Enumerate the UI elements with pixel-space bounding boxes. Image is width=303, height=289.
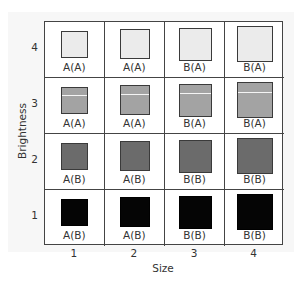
cell-label: A(B) <box>45 229 104 241</box>
grid-cell: B(B) <box>165 190 225 246</box>
grid-cell: B(B) <box>225 190 284 246</box>
cell-label: A(B) <box>45 173 104 185</box>
y-tick-label: 1 <box>26 209 38 221</box>
cell-label: B(A) <box>225 117 284 129</box>
stimulus-grid: A(A)A(A)B(A)B(A)A(A)A(A)B(A)B(A)A(B)A(B)… <box>44 21 283 245</box>
cell-label: A(B) <box>105 229 165 241</box>
grid-cell: A(B) <box>45 134 105 190</box>
stimulus-square <box>120 29 150 59</box>
grid-cell: A(B) <box>45 190 105 246</box>
stimulus-square <box>179 196 212 229</box>
grid-cell: A(A) <box>105 78 166 134</box>
cell-label: A(A) <box>45 117 104 129</box>
highlight-stripe <box>62 95 87 96</box>
cell-label: B(B) <box>165 229 224 241</box>
stimulus-square <box>237 82 273 118</box>
grid-cell: A(A) <box>45 78 105 134</box>
stimulus-square <box>237 194 273 230</box>
highlight-stripe <box>121 94 149 95</box>
x-tick-label: 2 <box>124 247 144 259</box>
grid-cell: B(B) <box>225 134 284 190</box>
y-tick-label: 4 <box>26 41 38 53</box>
highlight-stripe <box>238 92 272 93</box>
stimulus-square <box>120 85 150 115</box>
grid-cell: B(A) <box>225 22 284 78</box>
grid-cell: A(B) <box>105 134 166 190</box>
stimulus-square <box>61 31 88 58</box>
stimulus-square <box>179 84 212 117</box>
cell-label: B(A) <box>225 61 284 73</box>
cell-label: A(A) <box>45 61 104 73</box>
x-axis-label: Size <box>143 262 183 274</box>
grid-cell: B(A) <box>165 22 225 78</box>
stimulus-square <box>61 87 88 114</box>
stimulus-square <box>237 26 273 62</box>
x-tick-label: 4 <box>244 247 264 259</box>
stimulus-square <box>237 138 273 174</box>
cell-label: A(A) <box>105 61 165 73</box>
cell-label: B(A) <box>165 117 224 129</box>
grid-cell: A(A) <box>105 22 166 78</box>
grid-cell: B(A) <box>225 78 284 134</box>
grid-cell: B(A) <box>165 78 225 134</box>
cell-label: A(B) <box>105 173 165 185</box>
cell-label: A(A) <box>105 117 165 129</box>
stimulus-square <box>61 199 88 226</box>
stimulus-square <box>120 141 150 171</box>
cell-label: B(B) <box>225 173 284 185</box>
grid-cell: A(A) <box>45 22 105 78</box>
x-tick-label: 3 <box>184 247 204 259</box>
grid-cell: B(B) <box>165 134 225 190</box>
cell-label: B(A) <box>165 61 224 73</box>
stimulus-square <box>179 28 212 61</box>
x-tick-label: 1 <box>64 247 84 259</box>
highlight-stripe <box>180 93 211 94</box>
cell-label: B(B) <box>225 229 284 241</box>
stimulus-square <box>179 140 212 173</box>
grid-cell: A(B) <box>105 190 166 246</box>
stimulus-square <box>61 143 88 170</box>
y-axis-label: Brightness <box>16 101 28 161</box>
stimulus-square <box>120 197 150 227</box>
cell-label: B(B) <box>165 173 224 185</box>
